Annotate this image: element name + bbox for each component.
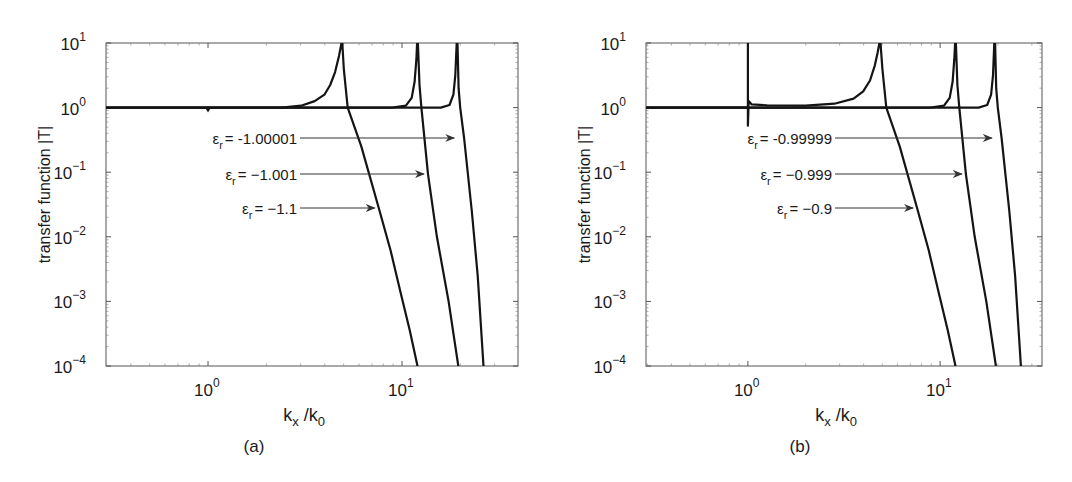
y-tick-label: 100 bbox=[600, 95, 626, 119]
series-line-2 bbox=[646, 43, 1021, 366]
epsilon-label-0: εr= -1.00001 bbox=[212, 130, 297, 151]
plot-frame bbox=[106, 43, 518, 366]
epsilon-label-0: εr= -0.99999 bbox=[747, 130, 832, 151]
y-axis-label: transfer function |T| bbox=[36, 126, 53, 263]
x-tick-label: 100 bbox=[194, 376, 220, 400]
y-tick-label: 101 bbox=[600, 30, 626, 54]
y-axis-label: transfer function |T| bbox=[576, 126, 593, 263]
curves-group bbox=[646, 43, 1021, 366]
y-tick-label: 100 bbox=[60, 95, 86, 119]
x-tick-label: 101 bbox=[388, 376, 414, 400]
caption-b: (b) bbox=[770, 437, 830, 457]
chart-panel-a: 10110010−110−210−310−4100101transfer fun… bbox=[0, 0, 536, 482]
y-tick-label: 10−3 bbox=[593, 288, 626, 312]
chart-panel-b: 10110010−110−210−310−4100101transfer fun… bbox=[536, 0, 1072, 482]
epsilon-label-2: εr= −0.9 bbox=[777, 200, 832, 221]
x-tick-label: 101 bbox=[926, 376, 952, 400]
y-tick-label: 10−2 bbox=[53, 224, 86, 248]
plot-b-svg: 10110010−110−210−310−4100101transfer fun… bbox=[536, 0, 1072, 482]
y-tick-label: 10−2 bbox=[593, 224, 626, 248]
epsilon-label-1: εr= −1.001 bbox=[225, 166, 297, 187]
y-tick-label: 10−1 bbox=[593, 159, 626, 183]
y-tick-label: 10−3 bbox=[53, 288, 86, 312]
caption-a: (a) bbox=[224, 437, 284, 457]
y-tick-label: 101 bbox=[60, 30, 86, 54]
x-axis-label: kx /k0 bbox=[815, 405, 857, 429]
epsilon-label-1: εr= −0.999 bbox=[760, 166, 832, 187]
y-tick-label: 10−4 bbox=[53, 353, 86, 377]
plot-a-svg: 10110010−110−210−310−4100101transfer fun… bbox=[0, 0, 536, 482]
plot-frame bbox=[646, 43, 1042, 366]
x-axis-label: kx /k0 bbox=[283, 405, 325, 429]
epsilon-label-2: εr= −1.1 bbox=[242, 200, 297, 221]
y-tick-label: 10−1 bbox=[53, 159, 86, 183]
x-tick-label: 100 bbox=[734, 376, 760, 400]
y-tick-label: 10−4 bbox=[593, 353, 626, 377]
